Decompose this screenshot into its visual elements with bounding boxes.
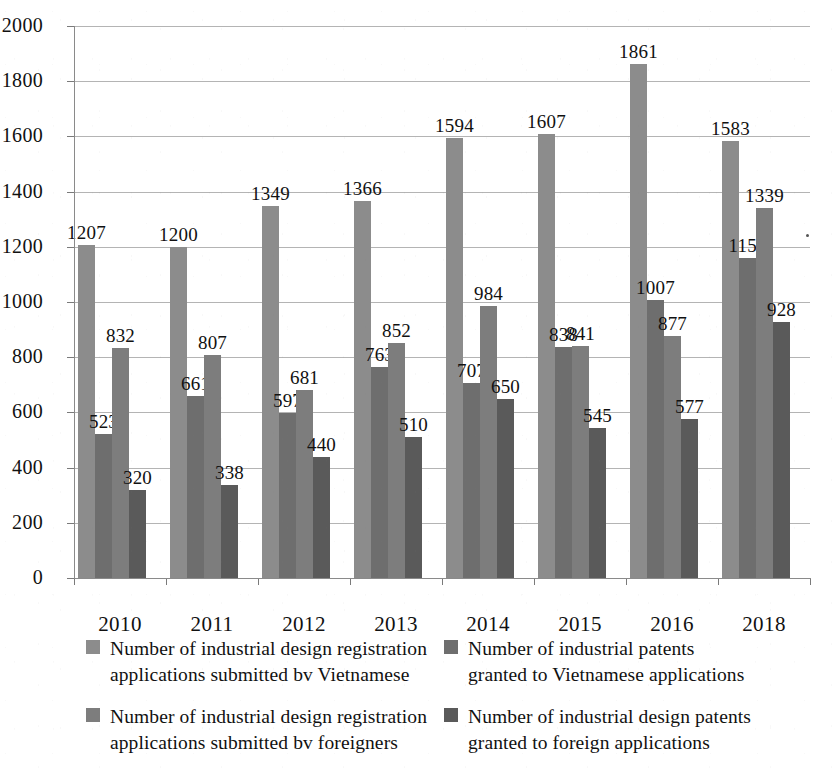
bar (187, 396, 204, 578)
bar (95, 434, 112, 578)
bar-group: 158311581339928 (718, 26, 810, 578)
y-axis-tick-label: 600 (0, 401, 43, 421)
x-axis-tick-label: 2016 (626, 612, 718, 636)
y-axis-tick (67, 302, 74, 303)
bar-group: 1366763852510 (350, 26, 442, 578)
bar (555, 347, 572, 578)
bar (664, 336, 681, 578)
bar (630, 64, 647, 578)
legend-entry[interactable]: Number of industrial design registration… (86, 636, 436, 690)
bar (756, 208, 773, 578)
y-axis-tick (67, 192, 74, 193)
bar (371, 367, 388, 578)
y-axis-tick (67, 357, 74, 358)
y-axis-tick-label: 800 (0, 346, 43, 366)
bar-value-label: 1366 (337, 179, 389, 198)
legend-entry[interactable]: Number of industrial design patentsgrant… (444, 704, 804, 758)
bar (497, 399, 514, 578)
x-axis-tick (74, 578, 75, 585)
bar (647, 300, 664, 578)
y-axis-tick-label: 200 (0, 512, 43, 532)
bar (446, 138, 463, 578)
bar-value-label: 877 (647, 314, 699, 333)
bar-value-label: 852 (371, 321, 423, 340)
x-axis-tick (258, 578, 259, 585)
x-axis-tick-label: 2013 (350, 612, 442, 636)
bar-value-label: 577 (664, 397, 716, 416)
bar (739, 258, 756, 578)
y-axis-tick (67, 136, 74, 137)
bar-group: 1607838841545 (534, 26, 626, 578)
bar-value-label: 984 (463, 284, 515, 303)
bar-chart-figure: 2000180016001400120010008006004002000120… (0, 0, 833, 770)
bar-value-label: 1339 (739, 186, 791, 205)
y-axis-tick-label: 400 (0, 457, 43, 477)
x-axis-tick-label: 2010 (74, 612, 166, 636)
legend-column-left: Number of industrial design registration… (86, 636, 436, 770)
legend-label: Number of industrial design registration… (110, 636, 436, 688)
x-axis-tick-label: 2015 (534, 612, 626, 636)
bar-value-label: 1200 (153, 225, 205, 244)
x-axis-line (74, 578, 811, 579)
x-axis-tick-label: 2018 (718, 612, 810, 636)
bar (480, 306, 497, 578)
bar (170, 247, 187, 578)
y-axis-tick (67, 523, 74, 524)
bar-value-label: 1594 (429, 116, 481, 135)
legend-entry[interactable]: Number of industrial patentsgranted to V… (444, 636, 804, 690)
x-axis-tick (718, 578, 719, 585)
bar (538, 134, 555, 578)
bar-group: 18611007877577 (626, 26, 718, 578)
bar-value-label: 928 (756, 300, 808, 319)
y-axis-tick (67, 412, 74, 413)
x-axis-tick-label: 2012 (258, 612, 350, 636)
bar-value-label: 1861 (613, 42, 665, 61)
y-axis-tick (67, 578, 74, 579)
bar-group: 1594707984650 (442, 26, 534, 578)
bar-value-label: 320 (112, 468, 164, 487)
bar-value-label: 832 (95, 326, 147, 345)
y-axis-tick (67, 26, 74, 27)
bar (388, 343, 405, 578)
y-axis-tick (67, 81, 74, 82)
bar (722, 141, 739, 578)
bar (129, 490, 146, 578)
bar (463, 383, 480, 578)
bar-group: 1207523832320 (74, 26, 166, 578)
plot-area: 2000180016001400120010008006004002000120… (74, 26, 810, 578)
legend-column-right: Number of industrial patentsgranted to V… (444, 636, 804, 770)
legend-label: Number of industrial design registration… (110, 704, 436, 756)
y-axis-tick-label: 1800 (0, 70, 43, 90)
y-axis-tick-label: 1200 (0, 236, 43, 256)
legend-entry[interactable]: Number of industrial design registration… (86, 704, 436, 758)
bar-value-label: 440 (296, 435, 348, 454)
bar-value-label: 807 (187, 333, 239, 352)
x-axis-tick (166, 578, 167, 585)
bar-value-label: 510 (388, 415, 440, 434)
legend-swatch-icon (444, 640, 458, 654)
bar-group: 1349597681440 (258, 26, 350, 578)
bar-value-label: 650 (480, 377, 532, 396)
x-axis-tick-label: 2014 (442, 612, 534, 636)
legend-swatch-icon (86, 708, 100, 722)
bar-value-label: 1007 (630, 278, 682, 297)
y-axis-tick-label: 1400 (0, 181, 43, 201)
bar (296, 390, 313, 578)
bar (405, 437, 422, 578)
legend-swatch-icon (86, 640, 100, 654)
legend-swatch-icon (444, 708, 458, 722)
x-axis-tick (810, 578, 811, 585)
bar (112, 348, 129, 578)
bar (221, 485, 238, 578)
y-axis-tick (67, 247, 74, 248)
x-axis-tick (626, 578, 627, 585)
bar-value-label: 1583 (705, 119, 757, 138)
bar-value-label: 681 (279, 368, 331, 387)
x-axis-tick (442, 578, 443, 585)
bar (572, 346, 589, 578)
x-axis-tick (534, 578, 535, 585)
bar (313, 457, 330, 578)
bar (773, 322, 790, 578)
y-axis-tick-label: 1600 (0, 125, 43, 145)
bar-value-label: 1349 (245, 184, 297, 203)
